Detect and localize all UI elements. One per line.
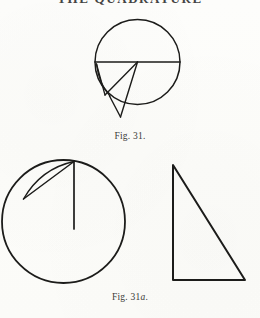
caption-figure-31a: Fig. 31a. xyxy=(0,292,260,302)
figure-31a-drawing xyxy=(0,0,260,318)
caption-prefix: Fig. xyxy=(112,292,128,302)
fig31a-triangle xyxy=(173,165,245,280)
scanned-page: THE QUADRATURE Fig. 31. xyxy=(0,0,260,318)
fig31a-circle xyxy=(2,160,125,283)
caption-number: 31 xyxy=(130,292,140,302)
caption-period: . xyxy=(145,292,148,302)
fig31a-chord-line xyxy=(24,162,75,200)
